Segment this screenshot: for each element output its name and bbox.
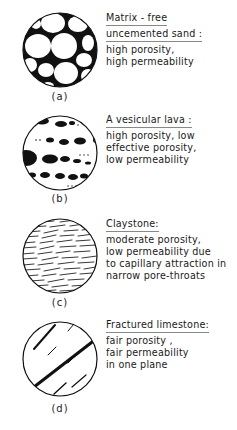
body-line: low permeability due xyxy=(106,246,226,258)
body-line: high porosity, xyxy=(106,44,202,56)
title-line: uncemented sand : xyxy=(106,28,202,42)
vesicles-icon xyxy=(20,113,100,193)
body-line: fair permeability xyxy=(106,347,209,359)
body-line: narrow pore-throats xyxy=(106,270,226,282)
body-line: high porosity, low xyxy=(106,130,196,142)
description-a: Matrix - free uncemented sand : high por… xyxy=(106,12,202,68)
caption-d: (d) xyxy=(30,403,90,414)
panel-b-vesicular-lava: (b) A vesicular lava : high porosity, lo… xyxy=(0,105,237,210)
panel-c-claystone: (c) Claystone: moderate porosity, low pe… xyxy=(0,210,237,315)
body-line: high permeability xyxy=(106,56,202,68)
title-line: Fractured limestone: xyxy=(106,319,209,333)
clay-laminae-icon xyxy=(20,216,100,296)
caption-c: (c) xyxy=(30,297,90,308)
caption-a: (a) xyxy=(30,91,90,102)
description-b: A vesicular lava : high porosity, low ef… xyxy=(106,114,196,166)
body-line: in one plane xyxy=(106,359,209,371)
caption-b: (b) xyxy=(30,193,90,204)
body-line: effective porosity, xyxy=(106,142,196,154)
panel-d-fractured-limestone: (d) Fractured limestone: fair porosity ,… xyxy=(0,315,237,430)
body-line: low permeability xyxy=(106,154,196,166)
fractures-icon xyxy=(20,319,100,399)
body-line: to capillary attraction in xyxy=(106,258,226,270)
title-line: Claystone: xyxy=(106,218,159,232)
description-c: Claystone: moderate porosity, low permea… xyxy=(106,218,226,282)
panel-a-matrix-free-sand: (a) Matrix - free uncemented sand : high… xyxy=(0,0,237,105)
title-line: Matrix - free xyxy=(106,12,167,26)
body-line: moderate porosity, xyxy=(106,234,226,246)
description-d: Fractured limestone: fair porosity , fai… xyxy=(106,319,209,371)
sand-grains-icon xyxy=(20,10,100,90)
title-line: A vesicular lava : xyxy=(106,114,192,128)
body-line: fair porosity , xyxy=(106,335,209,347)
